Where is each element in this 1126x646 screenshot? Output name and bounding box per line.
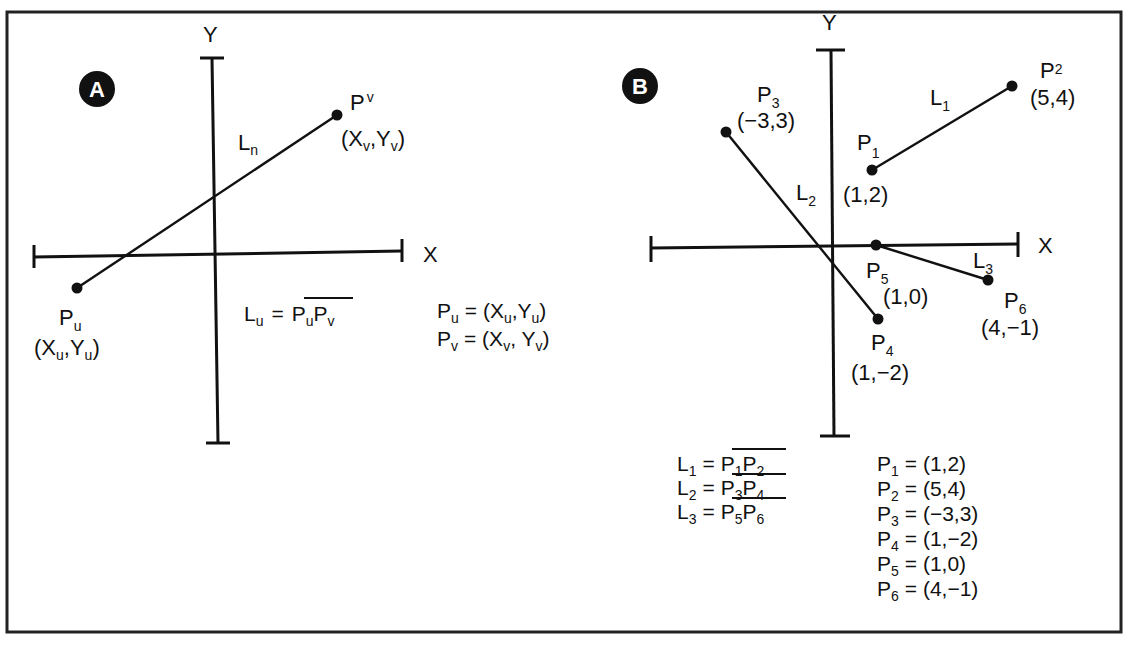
segment-l2 [726, 132, 878, 319]
line-label-l2: L2 [796, 180, 816, 209]
point-p1 [867, 165, 878, 176]
point-label-p1: P1 [857, 130, 880, 161]
segment-l3 [876, 245, 988, 280]
segment-lu [77, 115, 337, 288]
line-label-l1: L1 [930, 85, 950, 114]
coord-label-p6: (4,−1) [981, 315, 1039, 340]
svg-text:P1= (1,2): P1= (1,2) [877, 452, 966, 479]
panel-b: B X Y L1 L2 L3 P1 (1,2) P2 [622, 10, 1075, 604]
line-segment-diagram: A X Y Ln Pv (Xv,Yv) Pu (Xu,Yu) Lu=PuPv [0, 0, 1126, 646]
line-label-ln: Ln [238, 130, 258, 158]
svg-text:A: A [89, 77, 105, 102]
panel-a-y-axis-label: Y [203, 22, 218, 47]
coord-label-p2: (5,4) [1030, 85, 1075, 110]
panel-a-axes [34, 58, 402, 443]
coord-label-pu: (Xu,Yu) [34, 335, 100, 363]
svg-text:B: B [632, 74, 648, 99]
point-p3 [721, 127, 732, 138]
coord-label-p4: (1,−2) [851, 360, 909, 385]
point-pu [72, 283, 83, 294]
point-pv [332, 110, 343, 121]
point-definitions-a: Pu= (Xu,Yu) Pv= (Xv, Yv) [437, 299, 549, 354]
badge-b-icon: B [622, 68, 658, 104]
point-p2 [1007, 81, 1018, 92]
coord-label-p5: (1,0) [883, 284, 928, 309]
svg-text:P3= (−3,3): P3= (−3,3) [877, 502, 978, 529]
panel-b-y-axis-label: Y [822, 10, 837, 35]
coord-label-pv: (Xv,Yv) [341, 126, 405, 154]
svg-text:Pu= (Xu,Yu): Pu= (Xu,Yu) [437, 299, 546, 326]
panel-a-x-axis-label: X [423, 242, 438, 267]
svg-text:P2= (5,4): P2= (5,4) [877, 477, 966, 504]
svg-text:P4= (1,−2): P4= (1,−2) [877, 527, 978, 554]
line-label-l3: L3 [973, 248, 993, 277]
panel-a: A X Y Ln Pv (Xv,Yv) Pu (Xu,Yu) Lu=PuPv [34, 22, 549, 443]
svg-text:L3=P5P6: L3=P5P6 [677, 500, 765, 527]
coord-label-p3: (−3,3) [737, 108, 795, 133]
svg-text:Lu=PuPv: Lu=PuPv [244, 302, 335, 329]
segment-definitions-b: L1=P1P2 L2=P3P4 L3=P5P6 [677, 449, 786, 527]
point-p4 [873, 314, 884, 325]
coord-label-p1: (1,2) [843, 182, 888, 207]
point-label-p2: P2 [1040, 58, 1063, 83]
point-label-p3: P3 [757, 82, 780, 111]
svg-text:P5= (1,0): P5= (1,0) [877, 552, 966, 579]
point-label-pu: Pu [59, 305, 81, 334]
point-p5 [871, 240, 882, 251]
point-label-p6: P6 [1004, 288, 1027, 317]
panel-b-x-axis-label: X [1038, 233, 1053, 258]
point-label-p4: P4 [871, 330, 894, 359]
svg-text:P6= (4,−1): P6= (4,−1) [877, 577, 978, 604]
badge-a-icon: A [79, 71, 115, 107]
panel-b-axes [651, 50, 1018, 436]
svg-text:Pv= (Xv, Yv): Pv= (Xv, Yv) [437, 327, 549, 354]
point-label-pv: Pv [350, 89, 374, 115]
segment-definition-lu: Lu=PuPv [244, 298, 353, 329]
point-definitions-b: P1= (1,2) P2= (5,4) P3= (−3,3) P4= (1,−2… [877, 452, 978, 604]
point-label-p5: P5 [866, 258, 889, 287]
